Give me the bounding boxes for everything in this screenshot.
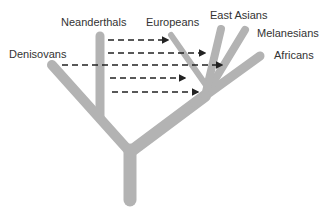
denisovan-branch: [52, 65, 130, 152]
label-melanesians: Melanesians: [257, 27, 319, 39]
label-neanderthals: Neanderthals: [61, 16, 127, 28]
label-africans: Africans: [274, 49, 314, 61]
label-europeans: Europeans: [146, 16, 200, 28]
europeans-branch: [171, 35, 208, 88]
tree-diagram: Neanderthals Denisovans Europeans East A…: [0, 0, 326, 217]
label-east-asians: East Asians: [210, 9, 268, 21]
label-denisovans: Denisovans: [9, 48, 67, 60]
